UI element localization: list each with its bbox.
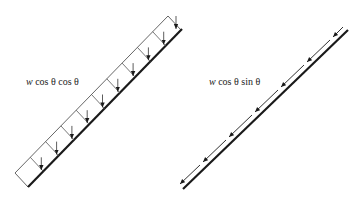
right-load-label: w cos θ sin θ [209,76,260,87]
parallel-shear-arrows [180,27,343,184]
strip-bottom-cap [15,173,28,187]
inclined-member-left [28,29,182,187]
downward-load-arrows [41,16,176,170]
strip-rungs [30,32,165,172]
diagram-canvas [0,0,363,201]
left-label-var: w [26,76,33,87]
right-shear-diagram [180,27,348,189]
left-load-label: w cos θ cos θ [26,76,79,87]
inclined-member-right [183,30,348,189]
left-load-strip [15,16,182,187]
right-label-rest: cos θ sin θ [216,76,261,87]
left-label-rest: cos θ cos θ [33,76,79,87]
strip-top-cap [168,16,181,30]
right-label-var: w [209,76,216,87]
